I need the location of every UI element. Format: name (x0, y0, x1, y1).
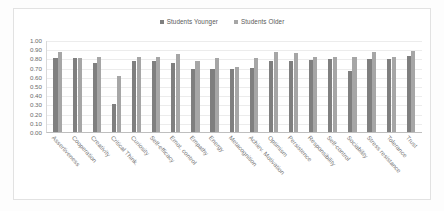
bar-group (342, 41, 362, 132)
bar (294, 53, 298, 132)
y-axis-tick-label: 0.80 (30, 56, 42, 62)
x-label-cell: Achiev. Motivation (244, 133, 264, 193)
y-axis-tick-label: 1.00 (30, 38, 42, 44)
x-label-cell: Trust (401, 133, 421, 193)
x-label-cell: Emot. control (165, 133, 185, 193)
x-label-cell: Creativity (86, 133, 106, 193)
bar (235, 67, 239, 132)
legend-entry: Students Older (234, 18, 284, 25)
y-axis-tick-label: 0.90 (30, 47, 42, 53)
legend-label: Students Younger (167, 18, 218, 25)
chart-legend: Students YoungerStudents Older (0, 18, 444, 25)
bar (53, 58, 57, 132)
bar (372, 52, 376, 132)
x-axis-label: Trust (405, 134, 420, 149)
bar-group (264, 41, 284, 132)
bar-group (68, 41, 88, 132)
x-label-cell: Stress resistance (362, 133, 382, 193)
y-axis-tick-label: 0.10 (30, 121, 42, 127)
bar-group (107, 41, 127, 132)
bar-series-container (47, 41, 422, 132)
bar (333, 57, 337, 132)
bar (352, 57, 356, 132)
x-label-cell: Self-efficacy (145, 133, 165, 193)
bar (309, 60, 313, 132)
bar (58, 52, 62, 132)
x-label-cell: Persistence (283, 133, 303, 193)
bar-group (401, 41, 421, 132)
bar (210, 69, 214, 132)
bar-group (205, 41, 225, 132)
y-axis-tick-label: 0.20 (30, 111, 42, 117)
bar (93, 63, 97, 132)
y-axis-tick-label: 0.60 (30, 75, 42, 81)
bar (392, 57, 396, 132)
bar-group (284, 41, 304, 132)
y-axis-tick-label: 0.00 (30, 130, 42, 136)
bar-group (362, 41, 382, 132)
bar-group (48, 41, 68, 132)
bar (78, 58, 82, 132)
x-label-cell: Responsibility (303, 133, 323, 193)
x-label-cell: Energy (205, 133, 225, 193)
bar (269, 61, 273, 132)
plot-area (46, 41, 422, 133)
legend-swatch-icon (160, 20, 164, 24)
bar (313, 57, 317, 132)
bar-group (244, 41, 264, 132)
bar-group (225, 41, 245, 132)
x-label-cell: Critical Think. (106, 133, 126, 193)
bar (112, 104, 116, 132)
bar-group (382, 41, 402, 132)
bar (195, 61, 199, 132)
bar (250, 68, 254, 132)
x-label-cell: Empathy (185, 133, 205, 193)
y-axis: 1.000.900.800.700.600.500.400.300.200.10… (22, 41, 44, 133)
bar (289, 61, 293, 132)
bar (367, 59, 371, 132)
bar-chart-figure: Students YoungerStudents Older 1.000.900… (0, 0, 444, 211)
bar (176, 54, 180, 132)
x-label-cell: Optimism (264, 133, 284, 193)
bar (387, 59, 391, 132)
bar (117, 76, 121, 132)
x-label-cell: Cooperation (67, 133, 87, 193)
y-axis-tick-label: 0.40 (30, 93, 42, 99)
x-label-cell: Tolerance (382, 133, 402, 193)
x-label-cell: Self-control (323, 133, 343, 193)
bar-group (166, 41, 186, 132)
bar (137, 57, 141, 132)
bar (407, 56, 411, 132)
bar (328, 59, 332, 132)
x-axis-category-labels: AssertivenessCooperationCreativityCritic… (46, 133, 422, 193)
bar-group (323, 41, 343, 132)
bar (132, 61, 136, 132)
bar (215, 58, 219, 132)
bar (171, 63, 175, 132)
y-axis-tick-label: 0.70 (30, 65, 42, 71)
legend-entry: Students Younger (160, 18, 218, 25)
bar (411, 51, 415, 132)
bar (156, 57, 160, 132)
y-axis-tick-label: 0.50 (30, 84, 42, 90)
bar-group (146, 41, 166, 132)
bar (348, 71, 352, 132)
bar-group (87, 41, 107, 132)
legend-label: Students Older (241, 18, 284, 25)
x-label-cell: Curiosity (126, 133, 146, 193)
y-axis-tick-label: 0.30 (30, 102, 42, 108)
x-label-cell: Metacognition (224, 133, 244, 193)
x-label-cell: Assertiveness (47, 133, 67, 193)
bar (152, 61, 156, 132)
bar-group (127, 41, 147, 132)
bar (73, 58, 77, 132)
x-label-cell: Sociability (342, 133, 362, 193)
plot-wrapper: 1.000.900.800.700.600.500.400.300.200.10… (22, 41, 422, 133)
bar-group (303, 41, 323, 132)
bar (191, 69, 195, 132)
bar (97, 57, 101, 132)
bar (274, 52, 278, 132)
bar (254, 58, 258, 132)
bar (230, 69, 234, 132)
bar-group (185, 41, 205, 132)
